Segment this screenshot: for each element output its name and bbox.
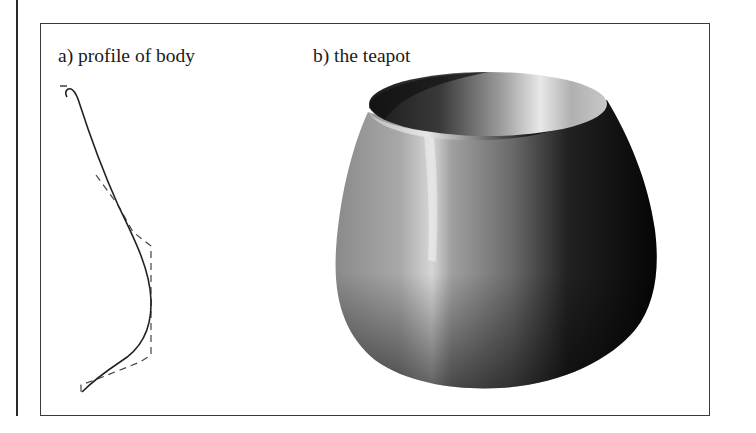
profile-curve xyxy=(66,89,151,392)
figure-artwork xyxy=(0,0,756,433)
teapot-opening xyxy=(369,72,607,136)
teapot-body-shadow xyxy=(336,100,657,388)
control-polygon xyxy=(81,175,151,396)
profile-diagram xyxy=(60,86,151,396)
teapot-render xyxy=(336,72,657,388)
